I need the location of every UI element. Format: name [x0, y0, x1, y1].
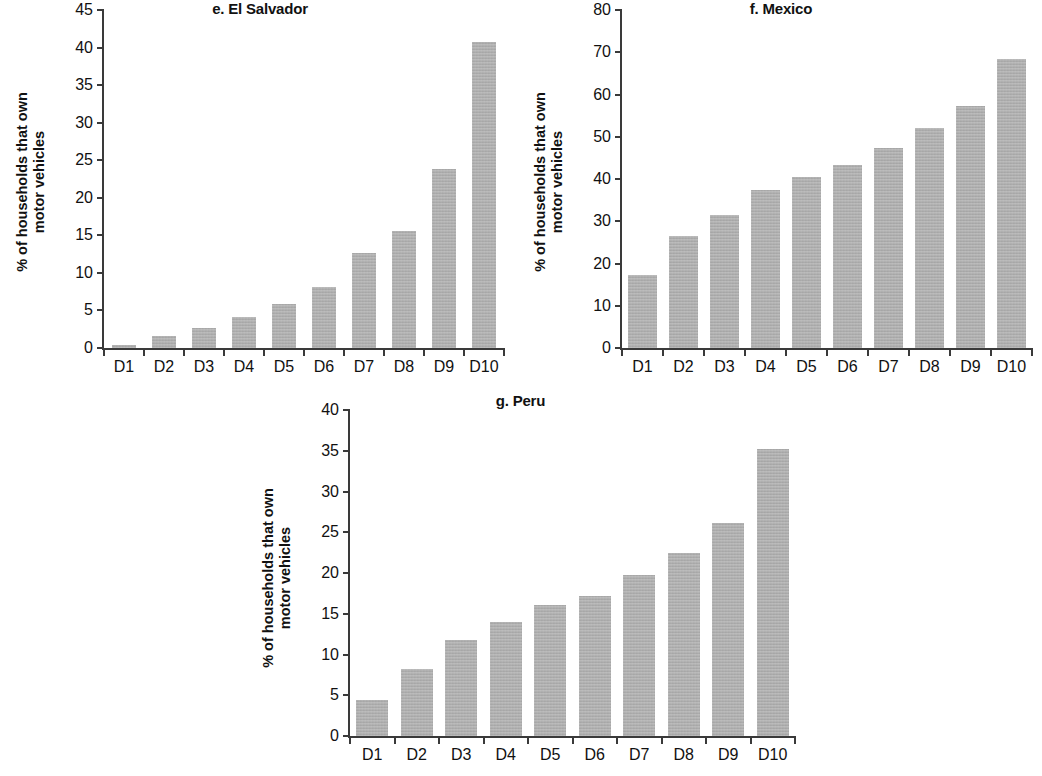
bar-slot: [868, 10, 909, 348]
x-axis-tick-mark: [438, 736, 440, 744]
y-axis-tick-label: 20: [75, 189, 93, 205]
x-axis-tick-mark: [750, 736, 752, 744]
x-axis-tick-mark: [394, 736, 396, 744]
x-axis-tick-mark: [1031, 348, 1033, 356]
x-axis-tick-mark: [103, 348, 105, 356]
x-axis-tick-label: D4: [224, 358, 264, 376]
bar-group-peru: [350, 410, 795, 736]
x-axis-tick-label: D9: [706, 746, 751, 764]
bar: [356, 700, 388, 736]
y-axis-tick-mark: [343, 654, 350, 656]
x-axis-tick-label: D1: [104, 358, 144, 376]
y-axis-tick-mark: [97, 9, 104, 11]
bar: [192, 328, 216, 348]
bar: [445, 640, 477, 736]
bar: [534, 605, 566, 736]
bar-group-mexico: [622, 10, 1032, 348]
y-axis-tick-label: 15: [321, 605, 339, 621]
y-axis-label-line1: % of households that own: [532, 0, 549, 381]
y-axis-label-line2: motor vehicles: [549, 0, 566, 381]
y-axis-tick-label: 40: [593, 171, 611, 187]
x-axis-tick-mark: [503, 348, 505, 356]
y-axis-label-el-salvador: % of households that own motor vehicles: [14, 0, 48, 381]
x-axis-tick-label: D4: [745, 358, 786, 376]
y-axis-tick-label: 10: [75, 264, 93, 280]
x-axis-tick-label: D5: [528, 746, 573, 764]
plot-area-el-salvador: D1D2D3D4D5D6D7D8D9D10 051015202530354045: [102, 10, 504, 350]
y-axis-tick-mark: [97, 309, 104, 311]
bar: [472, 42, 496, 348]
x-axis-tick-label: D7: [868, 358, 909, 376]
y-axis-tick-label: 70: [593, 44, 611, 60]
bar-slot: [144, 10, 184, 348]
bar: [352, 253, 376, 348]
plot-area-peru: D1D2D3D4D5D6D7D8D9D10 0510152025303540: [348, 410, 795, 738]
x-axis-tick-mark: [867, 348, 869, 356]
x-axis-tick-label: D2: [663, 358, 704, 376]
x-axis-tick-mark: [263, 348, 265, 356]
y-axis-label-line1: % of households that own: [260, 385, 277, 771]
y-axis-tick-label: 45: [75, 2, 93, 18]
bar-slot: [528, 410, 573, 736]
x-axis-tick-label: D7: [344, 358, 384, 376]
bar-slot: [224, 10, 264, 348]
x-axis-tick-label: D3: [704, 358, 745, 376]
bar: [232, 317, 256, 348]
x-axis-tick-mark: [183, 348, 185, 356]
x-axis-tick-label: D7: [617, 746, 662, 764]
y-axis-tick-label: 40: [321, 402, 339, 418]
bar: [432, 169, 456, 348]
bar: [272, 304, 296, 348]
x-axis-tick-mark: [621, 348, 623, 356]
x-axis-tick-label: D8: [384, 358, 424, 376]
bar-slot: [304, 10, 344, 348]
bar: [668, 553, 700, 736]
x-axis-tick-mark: [143, 348, 145, 356]
y-axis-tick-label: 35: [321, 442, 339, 458]
y-axis-tick-mark: [343, 409, 350, 411]
y-axis-tick-label: 0: [330, 728, 339, 744]
y-axis-tick-label: 30: [321, 483, 339, 499]
bar-slot: [104, 10, 144, 348]
x-axis-tick-mark: [949, 348, 951, 356]
x-axis-tick-label: D9: [950, 358, 991, 376]
y-axis-tick-mark: [343, 694, 350, 696]
bar-slot: [344, 10, 384, 348]
bar-slot: [991, 10, 1032, 348]
bar-slot: [827, 10, 868, 348]
x-axis-tick-mark: [303, 348, 305, 356]
x-axis-tick-label: D6: [573, 746, 618, 764]
x-axis-tick-label: D10: [991, 358, 1032, 376]
bar: [757, 449, 789, 736]
bar-slot: [950, 10, 991, 348]
x-axis-tick-label: D9: [424, 358, 464, 376]
y-axis-tick-label: 35: [75, 77, 93, 93]
x-axis-tick-label: D10: [751, 746, 796, 764]
x-axis-tick-mark: [785, 348, 787, 356]
x-axis-tick-label: D2: [144, 358, 184, 376]
bar: [392, 231, 416, 348]
y-axis-tick-label: 25: [321, 524, 339, 540]
y-axis-tick-mark: [97, 159, 104, 161]
y-axis-tick-label: 25: [75, 152, 93, 168]
y-axis-tick-mark: [343, 531, 350, 533]
x-axis-tick-mark: [527, 736, 529, 744]
y-axis-tick-mark: [615, 51, 622, 53]
bar: [623, 575, 655, 736]
bar-slot: [751, 410, 796, 736]
x-axis-tick-mark: [572, 736, 574, 744]
y-axis-tick-label: 30: [75, 114, 93, 130]
x-axis-tick-mark: [662, 348, 664, 356]
x-axis-tick-label: D1: [350, 746, 395, 764]
plot-area-mexico: D1D2D3D4D5D6D7D8D9D10 01020304050607080: [620, 10, 1032, 350]
y-axis-tick-label: 5: [84, 302, 93, 318]
y-axis-tick-label: 40: [75, 39, 93, 55]
y-axis-tick-mark: [97, 84, 104, 86]
bar-group-el-salvador: [104, 10, 504, 348]
y-axis-tick-label: 15: [75, 227, 93, 243]
x-axis-tick-mark: [826, 348, 828, 356]
y-axis-tick-label: 20: [321, 565, 339, 581]
bar-slot: [706, 410, 751, 736]
x-axis-tick-label: D4: [484, 746, 529, 764]
x-axis-tick-mark: [423, 348, 425, 356]
